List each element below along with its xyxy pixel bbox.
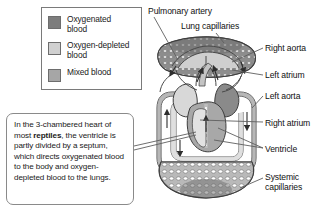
label-lung-capillaries: Lung capillaries [181,21,239,31]
oxygenated-blood-swatch [48,16,61,29]
legend-item-mixed: Mixed blood [48,68,111,82]
blood-type-legend: Oxygenated blood Oxygen-depleted blood M… [41,7,142,90]
reptile-heart-callout: In the 3-chambered heart of most reptile… [6,113,134,205]
legend-item-oxygen-depleted: Oxygen-depleted blood [48,41,129,60]
figure-canvas: Oxygenated blood Oxygen-depleted blood M… [0,0,328,216]
label-right-atrium: Right atrium [265,118,310,128]
callout-text: In the 3-chambered heart of most reptile… [14,120,126,184]
callout-emphasis: reptiles [33,131,61,140]
label-right-aorta: Right aorta [265,43,306,53]
mixed-blood-swatch [48,69,61,82]
systemic-capillaries-bed [150,158,270,206]
label-systemic-capillaries: Systemic capillaries [265,172,302,192]
label-left-aorta: Left aorta [265,91,300,101]
label-left-atrium: Left atrium [265,70,305,80]
label-pulmonary-artery: Pulmonary artery [148,6,212,16]
legend-label-mixed: Mixed blood [67,68,111,78]
label-ventricle: Ventricle [265,144,297,154]
lung-capillaries-bed [150,30,270,90]
legend-item-oxygenated: Oxygenated blood [48,15,111,34]
legend-label-oxygen-depleted: Oxygen-depleted blood [67,41,129,60]
oxygen-depleted-blood-swatch [48,42,61,55]
legend-label-oxygenated: Oxygenated blood [67,15,111,34]
